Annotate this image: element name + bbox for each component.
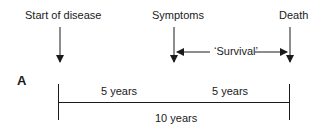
total-label: 10 years <box>155 112 197 124</box>
event-label-symptoms: Symptoms <box>152 9 204 21</box>
event-label-start: Start of disease <box>25 9 101 21</box>
survival-label: ‘Survival’ <box>214 45 258 57</box>
segment-label-2: 5 years <box>212 85 248 97</box>
event-label-death: Death <box>279 9 308 21</box>
segment-label-1: 5 years <box>101 85 137 97</box>
panel-label: A <box>17 73 26 88</box>
